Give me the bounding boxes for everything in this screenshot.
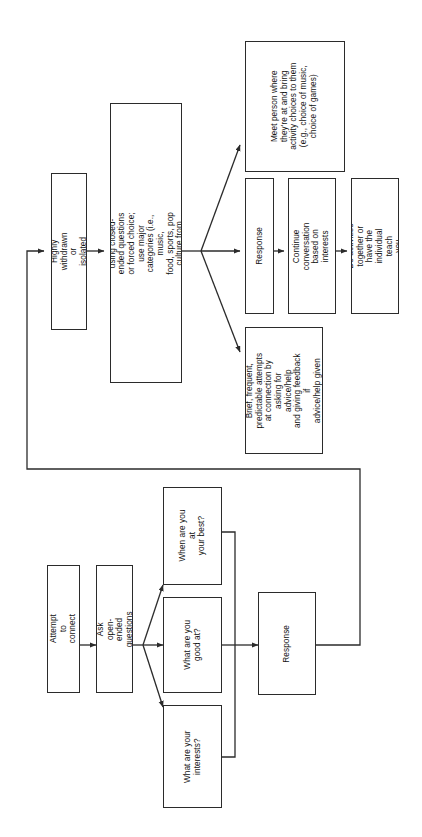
node-highly-withdrawn-label: Highly withdrawn or isolated <box>51 233 87 271</box>
node-response-top-label: Response <box>255 227 265 265</box>
node-continue-conversation-label: Continue conversation based on interests <box>293 222 332 270</box>
node-response-top[interactable]: Response <box>245 178 274 314</box>
edge-when-best-merge <box>222 532 235 645</box>
node-attempt-to-connect[interactable]: Attempt to connect <box>47 565 80 693</box>
node-ask-open-ended-label: Ask open-ended questions <box>96 611 133 647</box>
edge-ask-to-interests <box>143 645 163 707</box>
edge-narrowscope-to-meetperson <box>201 145 240 251</box>
node-response-bottom[interactable]: Response <box>258 592 316 695</box>
node-highly-withdrawn[interactable]: Highly withdrawn or isolated <box>51 173 87 330</box>
node-question-interests-label: What are your interests? <box>183 730 202 783</box>
node-narrow-scope-label: Narrow scope using closed-ended question… <box>110 208 182 278</box>
node-meet-person-label: Meet person where they're at and bring a… <box>271 63 319 150</box>
node-question-when-best-label: When are you at your best? <box>178 507 207 564</box>
edge-ask-to-when-best <box>143 585 163 645</box>
flowchart-canvas: Highly withdrawn or isolated Narrow scop… <box>0 0 422 837</box>
node-question-good-at-label: What are you good at? <box>183 620 202 670</box>
node-do-activities[interactable]: Do activities together or have the indiv… <box>351 178 399 314</box>
node-do-activities-label: Do activities together or have the indiv… <box>351 223 399 269</box>
node-continue-conversation[interactable]: Continue conversation based on interests <box>288 178 336 314</box>
node-attempt-to-connect-label: Attempt to connect <box>49 613 78 644</box>
node-response-bottom-label: Response <box>282 625 292 663</box>
node-question-when-best[interactable]: When are you at your best? <box>163 487 222 585</box>
edge-narrowscope-to-brief-frequent <box>201 251 240 352</box>
node-question-good-at[interactable]: What are you good at? <box>163 597 222 693</box>
node-brief-frequent-label: Brief, frequent, predictable attempts at… <box>245 353 322 429</box>
node-ask-open-ended[interactable]: Ask open-ended questions <box>96 565 133 693</box>
node-question-interests[interactable]: What are your interests? <box>163 705 222 808</box>
node-meet-person[interactable]: Meet person where they're at and bring a… <box>245 41 345 172</box>
node-narrow-scope[interactable]: Narrow scope using closed-ended question… <box>110 103 182 383</box>
node-brief-frequent[interactable]: Brief, frequent, predictable attempts at… <box>245 327 323 454</box>
edge-interests-merge <box>222 645 235 757</box>
